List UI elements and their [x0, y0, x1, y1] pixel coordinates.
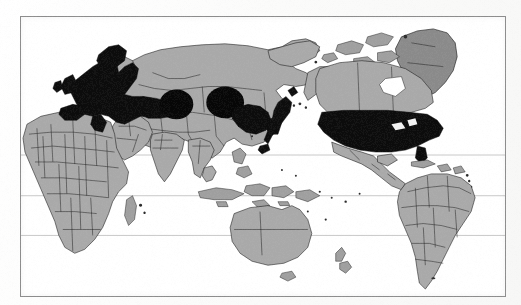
world-map-svg: [21, 17, 505, 296]
scanned-map-page: [0, 0, 521, 305]
region-south-asia: [150, 132, 184, 182]
highlight-central-asia-blob: [159, 89, 193, 119]
region-south-america: [397, 174, 475, 289]
region-new-zealand: [336, 247, 352, 273]
region-indonesia-philippines: [198, 148, 319, 208]
region-australia: [230, 206, 312, 281]
map-frame: [20, 16, 506, 297]
